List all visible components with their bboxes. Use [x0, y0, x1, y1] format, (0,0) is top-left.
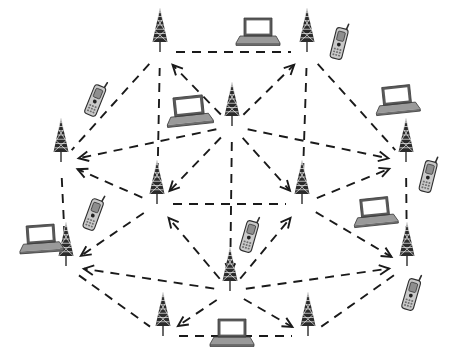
antenna-tower-icon[interactable] — [400, 222, 415, 266]
network-link — [169, 218, 220, 279]
network-link — [72, 64, 150, 150]
nodes-layer — [54, 8, 415, 336]
antenna-tower-icon[interactable] — [300, 8, 315, 52]
antenna-tower-icon[interactable] — [225, 82, 240, 126]
network-link — [243, 138, 290, 191]
network-canvas — [0, 0, 450, 358]
link-arrowhead — [381, 248, 392, 257]
mobile-phone-icon[interactable] — [401, 273, 423, 311]
link-arrowhead — [281, 318, 292, 327]
laptop-icon[interactable] — [18, 223, 64, 253]
laptop-icon[interactable] — [210, 319, 254, 346]
link-arrowhead — [280, 180, 290, 191]
network-link — [321, 275, 394, 327]
devices-layer — [18, 18, 439, 346]
antenna-tower-icon[interactable] — [399, 118, 414, 162]
mobile-phone-icon[interactable] — [239, 215, 261, 253]
link-arrowhead — [84, 265, 94, 275]
network-link — [248, 129, 389, 161]
mobile-phone-icon[interactable] — [330, 22, 350, 60]
network-link — [169, 138, 220, 191]
network-link — [178, 300, 217, 326]
antenna-tower-icon[interactable] — [153, 8, 168, 52]
laptop-icon[interactable] — [352, 196, 399, 228]
network-link — [246, 265, 389, 289]
antenna-tower-icon[interactable] — [150, 160, 165, 204]
antenna-tower-icon[interactable] — [156, 292, 171, 336]
network-link — [244, 299, 293, 327]
network-link — [79, 275, 150, 326]
mobile-phone-icon[interactable] — [84, 79, 109, 117]
mobile-phone-icon[interactable] — [419, 155, 439, 193]
antenna-tower-icon[interactable] — [223, 247, 238, 291]
network-link — [243, 65, 294, 115]
network-link — [317, 168, 389, 198]
antenna-tower-icon[interactable] — [295, 160, 310, 204]
laptop-icon[interactable] — [236, 18, 280, 45]
laptop-icon[interactable] — [374, 84, 421, 116]
antenna-tower-icon[interactable] — [54, 118, 69, 162]
network-topology-diagram — [0, 0, 450, 358]
network-link — [77, 169, 142, 198]
network-link — [84, 265, 214, 288]
link-arrowhead — [77, 169, 88, 178]
mobile-phone-icon[interactable] — [82, 193, 106, 231]
antenna-tower-icon[interactable] — [301, 292, 316, 336]
network-link — [79, 129, 217, 161]
